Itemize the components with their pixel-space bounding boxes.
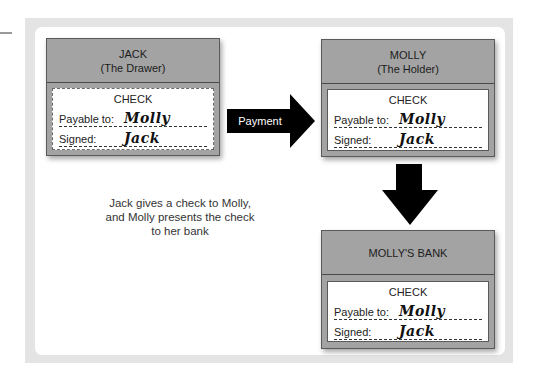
party-name: JACK <box>119 47 147 61</box>
check: CHECK Payable to: Molly Signed: Jack <box>52 88 214 150</box>
caption-line: to her bank <box>85 224 275 238</box>
payable-to-row: Payable to: Molly <box>334 300 482 320</box>
down-arrow-icon <box>382 164 438 225</box>
caption-line: and Molly presents the check <box>85 210 275 224</box>
signed-row: Signed: Jack <box>334 128 482 148</box>
check: CHECK Payable to: Molly Signed: Jack <box>327 281 489 342</box>
signed-value: Jack <box>399 323 435 339</box>
signed-value: Jack <box>399 131 435 147</box>
party-header: MOLLY'S BANK <box>322 231 494 275</box>
check-title: CHECK <box>59 93 207 106</box>
signed-label: Signed: <box>59 132 122 146</box>
payable-to-row: Payable to: Molly <box>59 107 207 127</box>
party-molly: MOLLY (The Holder) CHECK Payable to: Mol… <box>321 39 495 157</box>
signed-label: Signed: <box>334 133 397 147</box>
party-jack: JACK (The Drawer) CHECK Payable to: Moll… <box>46 38 220 156</box>
check-title: CHECK <box>334 286 482 299</box>
payable-to-row: Payable to: Molly <box>334 108 482 128</box>
payable-to-value: Molly <box>124 110 170 126</box>
party-role: (The Holder) <box>377 62 439 76</box>
signed-row: Signed: Jack <box>59 127 207 147</box>
diagram-caption: Jack gives a check to Molly, and Molly p… <box>85 196 275 238</box>
party-header: MOLLY (The Holder) <box>322 40 494 84</box>
signed-label: Signed: <box>334 325 397 339</box>
party-role: (The Drawer) <box>101 61 166 75</box>
payable-to-label: Payable to: <box>334 305 397 319</box>
check-title: CHECK <box>334 94 482 107</box>
corner-rule <box>0 32 12 34</box>
party-mollys-bank: MOLLY'S BANK CHECK Payable to: Molly Sig… <box>321 230 495 349</box>
payable-to-label: Payable to: <box>59 112 122 126</box>
caption-line: Jack gives a check to Molly, <box>85 196 275 210</box>
party-header: JACK (The Drawer) <box>47 39 219 83</box>
signed-value: Jack <box>124 130 160 146</box>
party-name: MOLLY <box>390 48 426 62</box>
party-name: MOLLY'S BANK <box>369 246 448 260</box>
payment-label: Payment <box>229 113 291 129</box>
payable-to-value: Molly <box>399 111 445 127</box>
payable-to-value: Molly <box>399 303 445 319</box>
signed-row: Signed: Jack <box>334 320 482 340</box>
check: CHECK Payable to: Molly Signed: Jack <box>327 89 489 151</box>
payable-to-label: Payable to: <box>334 113 397 127</box>
